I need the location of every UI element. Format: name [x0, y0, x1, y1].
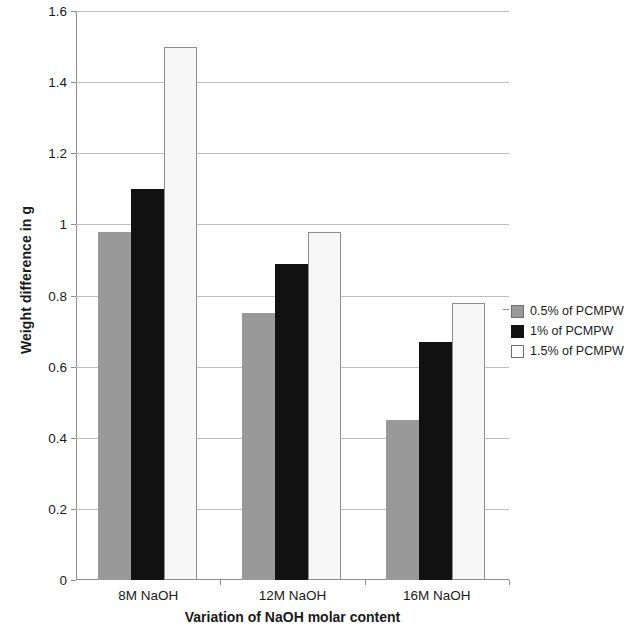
legend-label: 0.5% of PCMPW: [530, 304, 624, 318]
bar: [98, 232, 131, 581]
bar-chart-figure: Weight difference in g 1.61.41.210.80.60…: [0, 0, 635, 630]
y-axis-tick-mark: [71, 82, 76, 83]
legend: 0.5% of PCMPW1% of PCMPW1.5% of PCMPW: [509, 302, 635, 362]
y-axis-tick-mark: [71, 224, 76, 225]
x-axis-tick-mark: [220, 580, 221, 585]
legend-leader-tick: [503, 309, 509, 310]
legend-label: 1.5% of PCMPW: [530, 344, 624, 358]
y-axis-tick-label: 1.2: [48, 146, 67, 161]
y-axis-tick-label: 0.4: [48, 430, 67, 445]
x-axis-title: Variation of NaOH molar content: [76, 609, 509, 625]
legend-swatch-icon: [511, 325, 524, 338]
y-axis-tick-mark: [71, 580, 76, 581]
bar: [419, 342, 452, 580]
y-axis-title: Weight difference in g: [18, 170, 34, 390]
legend-item: 0.5% of PCMPW: [509, 302, 635, 320]
y-axis-tick-label: 0.8: [48, 288, 67, 303]
y-axis-tick-mark: [71, 11, 76, 12]
y-axis-tick-label: 0.2: [48, 501, 67, 516]
legend-swatch-icon: [511, 345, 524, 358]
bar: [386, 420, 419, 580]
bar: [452, 303, 485, 580]
legend-item: 1% of PCMPW: [509, 322, 635, 340]
gridline: [76, 82, 509, 83]
gridline: [76, 153, 509, 154]
y-axis-tick-mark: [71, 153, 76, 154]
legend-item: 1.5% of PCMPW: [509, 342, 635, 360]
bar: [131, 189, 164, 580]
bar: [275, 264, 308, 581]
x-axis-category-label: 16M NaOH: [403, 588, 471, 603]
x-axis-category-label: 12M NaOH: [259, 588, 327, 603]
bar: [242, 313, 275, 580]
y-axis-tick-mark: [71, 509, 76, 510]
y-axis-tick-mark: [71, 367, 76, 368]
y-axis-tick-label: 1.4: [48, 75, 67, 90]
y-axis-tick-label: 0: [59, 573, 67, 588]
x-axis-tick-mark: [365, 580, 366, 585]
x-axis-tick-mark: [509, 580, 510, 585]
plot-area: 1.61.41.210.80.60.40.20: [76, 11, 509, 580]
gridline: [76, 11, 509, 12]
bar: [308, 232, 341, 581]
bar: [164, 47, 197, 580]
legend-swatch-icon: [511, 305, 524, 318]
y-axis-tick-label: 1.6: [48, 4, 67, 19]
legend-label: 1% of PCMPW: [530, 324, 613, 338]
y-axis-tick-mark: [71, 296, 76, 297]
y-axis-tick-mark: [71, 438, 76, 439]
x-axis-category-label: 8M NaOH: [118, 588, 178, 603]
y-axis-tick-label: 1: [59, 217, 67, 232]
y-axis-tick-label: 0.6: [48, 359, 67, 374]
